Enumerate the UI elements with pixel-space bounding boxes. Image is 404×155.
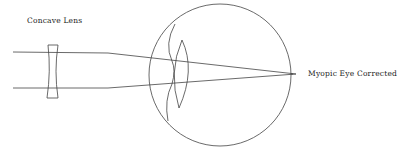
- upper-ray: [13, 52, 296, 74]
- eyeball: [149, 4, 291, 146]
- focal-point-icon: [291, 73, 293, 75]
- concave-lens: [47, 45, 58, 98]
- lower-ray: [13, 74, 296, 88]
- concave-lens-label: Concave Lens: [27, 16, 82, 25]
- myopic-eye-label: Myopic Eye Corrected: [308, 69, 397, 78]
- cornea-curve: [167, 24, 175, 121]
- crystalline-lens: [174, 40, 188, 108]
- diagram-canvas: Concave Lens Myopic Eye Corrected: [0, 0, 404, 155]
